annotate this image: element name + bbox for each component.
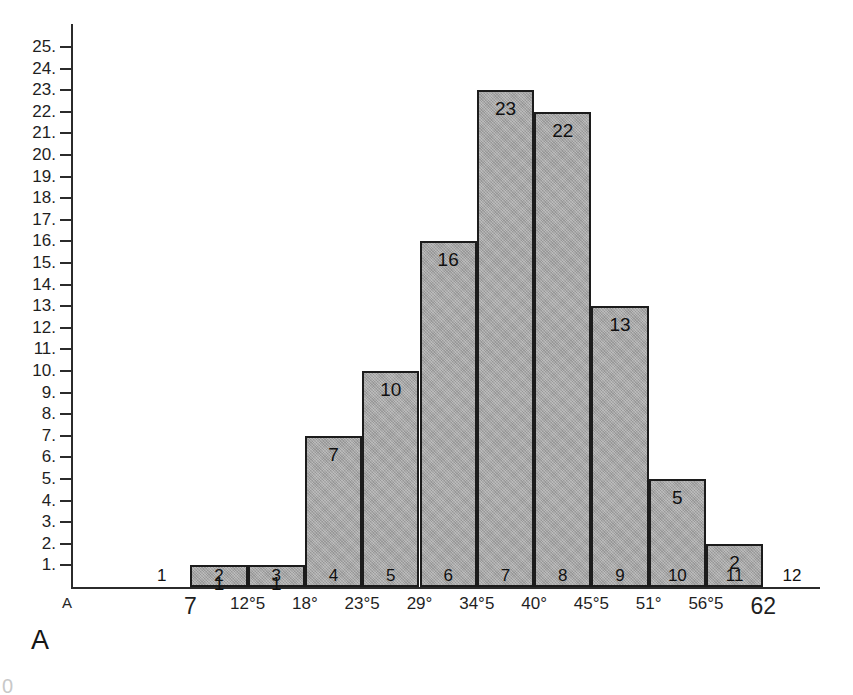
y-axis-tick — [60, 500, 72, 502]
bin-index-label: 4 — [305, 567, 362, 695]
y-axis-tick — [60, 219, 72, 221]
y-axis-tick-label: 16. — [0, 232, 56, 249]
y-axis-tick-label: 6. — [0, 448, 56, 465]
y-axis-tick-label: 5. — [0, 470, 56, 487]
y-axis-tick — [60, 89, 72, 91]
y-axis-tick-label: 14. — [0, 276, 56, 293]
y-axis-tick-label: 18. — [0, 189, 56, 206]
y-axis-tick-label: 23. — [0, 81, 56, 98]
y-axis-tick — [60, 154, 72, 156]
y-axis-tick-label: 8. — [0, 405, 56, 422]
axis-origin-letter: A — [62, 594, 72, 611]
y-axis-tick-label: 21. — [0, 124, 56, 141]
y-axis-tick-label: 12. — [0, 319, 56, 336]
y-axis-tick — [60, 284, 72, 286]
y-axis-tick — [60, 521, 72, 523]
y-axis-tick — [60, 111, 72, 113]
y-axis-tick — [60, 132, 72, 134]
y-axis-tick — [60, 348, 72, 350]
y-axis-tick — [60, 197, 72, 199]
y-axis-tick-label: 17. — [0, 211, 56, 228]
bin-index-label: 9 — [591, 567, 648, 695]
y-axis-tick-label: 9. — [0, 384, 56, 401]
y-axis-tick-label: 7. — [0, 427, 56, 444]
x-axis-tick-label: 62 — [718, 594, 808, 619]
y-axis-tick-label: 1. — [0, 556, 56, 573]
bin-index-label: 2 — [190, 567, 247, 695]
bar-value-label: 5 — [649, 488, 706, 507]
y-axis-tick-label: 19. — [0, 168, 56, 185]
figure-caption: A — [31, 625, 49, 655]
y-axis-tick — [60, 456, 72, 458]
plot-area: 25.24.23.22.21.20.19.18.17.16.15.14.13.1… — [0, 0, 853, 695]
bin-index-label: 7 — [477, 567, 534, 695]
y-axis-tick-label: 4. — [0, 492, 56, 509]
y-axis-tick — [60, 370, 72, 372]
page-edge-glyph: 0 — [2, 676, 13, 693]
y-axis-tick — [60, 543, 72, 545]
y-axis-tick-label: 20. — [0, 146, 56, 163]
y-axis-tick-label: 10. — [0, 362, 56, 379]
bar-value-label: 10 — [362, 380, 419, 399]
y-axis-tick-label: 11. — [0, 340, 56, 357]
y-axis-tick — [60, 478, 72, 480]
y-axis-tick — [60, 176, 72, 178]
y-axis-tick-label: 24. — [0, 60, 56, 77]
y-axis-tick-label: 25. — [0, 38, 56, 55]
bar-value-label: 16 — [420, 250, 477, 269]
histogram-bar — [534, 112, 591, 587]
bin-index-label: 1 — [133, 567, 190, 695]
bin-index-label: 12 — [763, 567, 820, 695]
y-axis-tick — [60, 435, 72, 437]
y-axis-tick — [60, 413, 72, 415]
y-axis-tick — [60, 68, 72, 70]
y-axis-tick-label: 15. — [0, 254, 56, 271]
bar-value-label: 7 — [305, 445, 362, 464]
histogram-figure: 25.24.23.22.21.20.19.18.17.16.15.14.13.1… — [0, 0, 853, 695]
bin-index-label: 11 — [706, 567, 763, 695]
y-axis-tick — [60, 305, 72, 307]
y-axis-tick-label: 2. — [0, 535, 56, 552]
bar-value-label: 23 — [477, 99, 534, 118]
y-axis-tick — [60, 392, 72, 394]
bar-value-label: 22 — [534, 121, 591, 140]
bar-value-label: 13 — [591, 315, 648, 334]
bin-index-label: 10 — [649, 567, 706, 695]
histogram-bar — [591, 306, 648, 587]
bin-index-label: 6 — [420, 567, 477, 695]
y-axis-tick-label: 22. — [0, 103, 56, 120]
histogram-bar — [477, 90, 534, 587]
y-axis-tick — [60, 262, 72, 264]
y-axis-tick — [60, 564, 72, 566]
y-axis-tick-label: 3. — [0, 513, 56, 530]
bin-index-label: 8 — [534, 567, 591, 695]
y-axis-tick — [60, 327, 72, 329]
y-axis-tick-label: 13. — [0, 297, 56, 314]
histogram-bar — [420, 241, 477, 587]
bin-index-label: 5 — [362, 567, 419, 695]
histogram-bar — [362, 371, 419, 587]
bin-index-label: 3 — [248, 567, 305, 695]
y-axis-tick — [60, 240, 72, 242]
y-axis-tick — [60, 46, 72, 48]
